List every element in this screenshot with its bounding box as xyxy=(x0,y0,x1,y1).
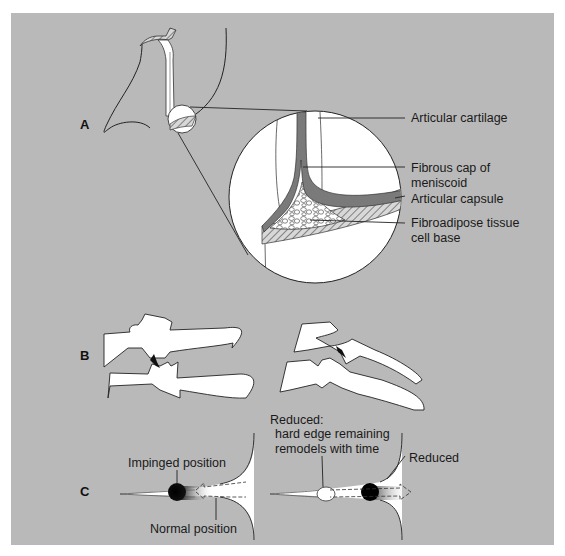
part-label-a: A xyxy=(80,117,89,132)
label-articular-cartilage: Articular cartilage xyxy=(411,111,508,125)
label-reduced-line2: hard edge remaining xyxy=(275,427,390,441)
label-reduced-arrow: Reduced xyxy=(409,451,459,465)
label-impinged-position: Impinged position xyxy=(128,456,226,470)
part-label-c: C xyxy=(80,484,89,499)
label-reduced-title: Reduced: xyxy=(270,413,324,427)
label-fibroadipose-line2: cell base xyxy=(411,231,460,245)
vertebrae-right xyxy=(280,322,424,410)
label-normal-position: Normal position xyxy=(150,522,237,536)
label-fibrous-cap-line2: meniscoid xyxy=(411,176,467,190)
diagram-illustration xyxy=(0,0,565,556)
label-articular-capsule: Articular capsule xyxy=(411,192,503,206)
magnified-view xyxy=(229,111,404,290)
label-reduced-line3: remodels with time xyxy=(275,442,379,456)
facet-joint-small xyxy=(140,28,196,133)
label-fibrous-cap-line1: Fibrous cap of xyxy=(411,161,490,175)
part-label-b: B xyxy=(80,348,89,363)
label-fibroadipose-line1: Fibroadipose tissue xyxy=(411,216,519,230)
vertebrae-left xyxy=(104,314,254,398)
